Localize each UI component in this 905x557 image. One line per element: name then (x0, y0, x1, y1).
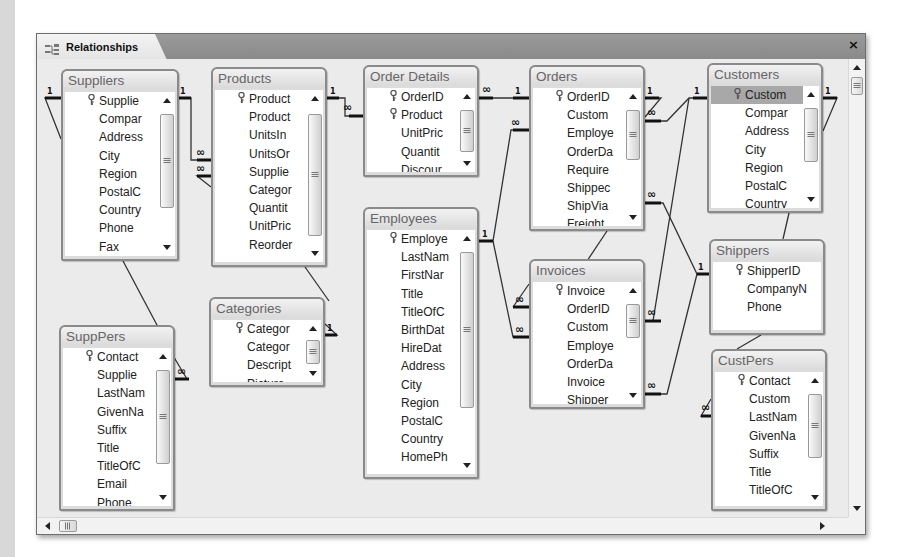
scroll-down-arrow[interactable] (463, 161, 471, 166)
horizontal-scroll-thumb[interactable] (59, 520, 77, 532)
scroll-up-arrow[interactable] (629, 288, 637, 293)
table-title[interactable]: Customers (709, 65, 821, 84)
vertical-scroll-thumb[interactable] (851, 77, 863, 95)
scroll-up-arrow[interactable] (309, 326, 317, 331)
table-title[interactable]: CustPers (713, 351, 825, 370)
scroll-up-arrow[interactable] (807, 92, 815, 97)
table-box-customers[interactable]: CustomersCustomComparAddressCityRegionPo… (707, 63, 823, 213)
table-scrollbar[interactable] (307, 90, 323, 262)
table-title[interactable]: SuppPers (61, 327, 173, 346)
table-title[interactable]: Invoices (531, 261, 643, 280)
scroll-down-arrow[interactable] (163, 245, 171, 250)
table-box-employees[interactable]: EmployeesEmployeLastNamFirstNarTitleTitl… (363, 207, 479, 479)
scroll-thumb[interactable] (308, 114, 322, 236)
scroll-up-arrow[interactable] (159, 354, 167, 359)
table-box-custpers[interactable]: CustPersContactCustomLastNamGivenNaSuffi… (711, 349, 827, 511)
scroll-down-arrow[interactable] (629, 393, 637, 398)
table-title[interactable]: Order Details (365, 67, 477, 86)
field-list[interactable]: ContactSupplieLastNamGivenNaSuffixTitleT… (63, 348, 171, 506)
scroll-down-arrow[interactable] (463, 463, 471, 468)
table-box-suppliers[interactable]: SuppliersSupplieComparAddressCityRegionP… (61, 69, 179, 261)
field-list[interactable]: ContactCustomLastNamGivenNaSuffixTitleTi… (715, 372, 823, 506)
scroll-up-arrow[interactable] (311, 96, 319, 101)
table-scrollbar[interactable] (159, 92, 175, 256)
scroll-up-arrow[interactable] (811, 378, 819, 383)
table-scrollbar[interactable] (155, 348, 171, 506)
scroll-right-arrow[interactable] (820, 522, 825, 530)
scroll-up-arrow[interactable] (163, 98, 171, 103)
table-box-supppers[interactable]: SuppPersContactSupplieLastNamGivenNaSuff… (59, 325, 175, 511)
grip-icon (808, 132, 815, 138)
scroll-thumb[interactable] (804, 108, 818, 162)
table-title[interactable]: Products (213, 69, 325, 88)
scroll-down-arrow[interactable] (159, 495, 167, 500)
table-scrollbar[interactable] (803, 86, 819, 208)
field-name: UnitPric (401, 126, 443, 140)
field-list[interactable]: ShipperIDCompanyNPhone (713, 262, 821, 330)
cardinality-one-label: 1 (698, 263, 704, 272)
field-name: LastNam (749, 410, 797, 424)
scroll-down-arrow[interactable] (853, 506, 861, 511)
field-list[interactable]: InvoiceOrderIDCustomEmployeOrderDaInvoic… (533, 282, 641, 404)
scroll-left-arrow[interactable] (45, 522, 50, 530)
table-title[interactable]: Orders (531, 67, 643, 86)
field-name: PostalC (745, 179, 787, 193)
field-row[interactable]: Phone (713, 298, 821, 316)
table-box-shippers[interactable]: ShippersShipperIDCompanyNPhone (709, 239, 825, 335)
table-scrollbar[interactable] (305, 320, 321, 382)
close-button[interactable]: × (848, 37, 859, 52)
relationships-canvas[interactable]: 11∞∞1∞∞1∞1∞∞1∞11∞1∞∞∞∞1 SuppliersSupplie… (37, 59, 849, 519)
field-name: City (745, 143, 766, 157)
table-box-order-details[interactable]: Order DetailsOrderIDProductUnitPricQuant… (363, 65, 479, 177)
table-title[interactable]: Categories (211, 299, 323, 318)
table-scrollbar[interactable] (625, 88, 641, 226)
table-box-invoices[interactable]: InvoicesInvoiceOrderIDCustomEmployeOrder… (529, 259, 645, 409)
table-scrollbar[interactable] (459, 230, 475, 474)
field-name: Employe (567, 126, 614, 140)
field-name: Custom (745, 88, 786, 102)
table-box-categories[interactable]: CategoriesCategorCategorDescriptPicture (209, 297, 325, 387)
scroll-up-arrow[interactable] (853, 65, 861, 70)
field-name: Address (745, 124, 789, 138)
field-list[interactable]: OrderIDProductUnitPricQuantitDiscour (367, 88, 475, 172)
scroll-down-arrow[interactable] (629, 215, 637, 220)
scroll-thumb[interactable] (160, 114, 174, 208)
field-list[interactable]: CategorCategorDescriptPicture (213, 320, 321, 382)
canvas-vertical-scrollbar[interactable] (848, 59, 865, 519)
scroll-thumb[interactable] (156, 370, 170, 464)
field-list[interactable]: ProductProductUnitsInUnitsOrSupplieCateg… (215, 90, 323, 262)
cardinality-one-label: 1 (180, 87, 186, 96)
field-row[interactable]: CompanyN (713, 280, 821, 298)
field-list[interactable]: OrderIDCustomEmployeOrderDaRequireShippe… (533, 88, 641, 226)
table-scrollbar[interactable] (459, 88, 475, 172)
tab-relationships[interactable]: Relationships (37, 34, 167, 60)
scroll-thumb[interactable] (460, 110, 474, 152)
scroll-thumb[interactable] (626, 110, 640, 160)
table-title[interactable]: Suppliers (63, 71, 177, 90)
field-list[interactable]: SupplieComparAddressCityRegionPostalCCou… (65, 92, 175, 256)
table-title[interactable]: Employees (365, 209, 477, 228)
scroll-down-arrow[interactable] (807, 197, 815, 202)
field-row[interactable]: ShipperID (713, 262, 821, 280)
scroll-thumb[interactable] (306, 340, 320, 364)
table-title[interactable]: Shippers (711, 241, 823, 260)
field-list[interactable]: EmployeLastNamFirstNarTitleTitleOfCBirth… (367, 230, 475, 474)
scroll-down-arrow[interactable] (309, 371, 317, 376)
scroll-thumb[interactable] (808, 394, 822, 458)
cardinality-many-icon: ∞ (515, 323, 523, 336)
scroll-up-arrow[interactable] (463, 94, 471, 99)
field-name: Region (99, 167, 137, 181)
scroll-down-arrow[interactable] (311, 251, 319, 256)
scroll-thumb[interactable] (626, 304, 640, 338)
table-scrollbar[interactable] (807, 372, 823, 506)
cardinality-many-icon: ∞ (177, 365, 185, 378)
table-scrollbar[interactable] (625, 282, 641, 404)
table-box-products[interactable]: ProductsProductProductUnitsInUnitsOrSupp… (211, 67, 327, 267)
scroll-up-arrow[interactable] (463, 236, 471, 241)
table-box-orders[interactable]: OrdersOrderIDCustomEmployeOrderDaRequire… (529, 65, 645, 231)
field-list[interactable]: CustomComparAddressCityRegionPostalCCoun… (711, 86, 819, 208)
scroll-thumb[interactable] (460, 252, 474, 408)
scroll-up-arrow[interactable] (629, 94, 637, 99)
scroll-down-arrow[interactable] (811, 495, 819, 500)
canvas-horizontal-scrollbar[interactable] (37, 517, 849, 534)
